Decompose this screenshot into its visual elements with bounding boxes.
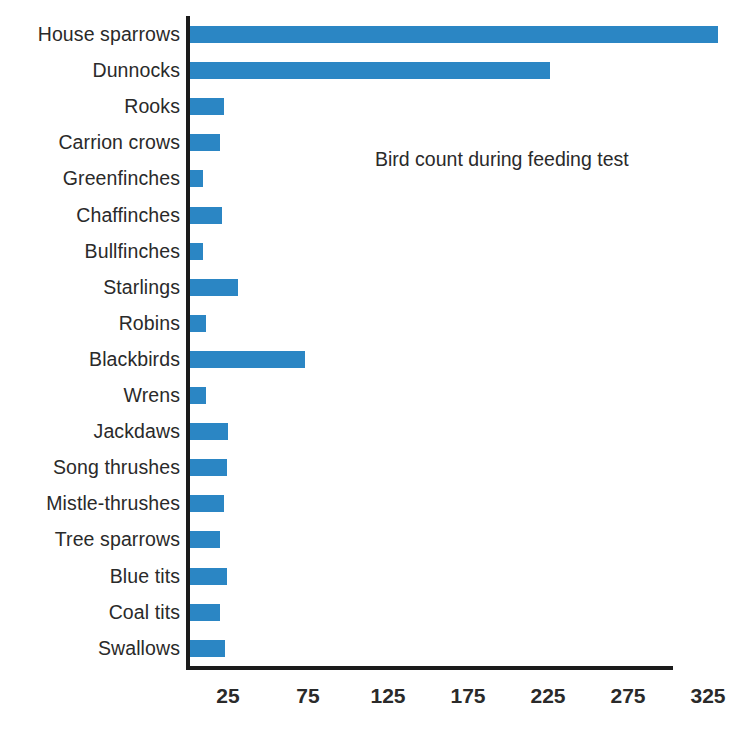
bar: [190, 134, 220, 151]
bar-category-label: Chaffinches: [76, 197, 180, 233]
bar-row: Coal tits: [0, 594, 700, 630]
bar-row: House sparrows: [0, 16, 700, 52]
x-axis-tick-label: 225: [508, 684, 588, 708]
bar: [190, 243, 203, 260]
x-axis-line: [186, 666, 673, 670]
x-axis-tick-label: 175: [428, 684, 508, 708]
bar-row: Swallows: [0, 630, 700, 666]
bar-rows: House sparrowsDunnocksRooksCarrion crows…: [0, 0, 700, 666]
x-axis-tick-label: 75: [268, 684, 348, 708]
x-axis-tick-label: 325: [668, 684, 730, 708]
bar: [190, 279, 238, 296]
bar-category-label: House sparrows: [38, 16, 180, 52]
bar: [190, 531, 220, 548]
bar: [190, 459, 227, 476]
bar-row: Wrens: [0, 377, 700, 413]
bar-category-label: Coal tits: [109, 594, 180, 630]
bar-category-label: Song thrushes: [53, 449, 180, 485]
bar: [190, 207, 222, 224]
bar-row: Carrion crows: [0, 124, 700, 160]
bar: [190, 640, 225, 657]
bar: [190, 495, 224, 512]
x-axis-tick-labels: 2575125175225275325: [0, 684, 700, 718]
bar-row: Greenfinches: [0, 160, 700, 196]
bar-category-label: Bullfinches: [85, 233, 180, 269]
bar-row: Blue tits: [0, 558, 700, 594]
bar-category-label: Blackbirds: [89, 341, 180, 377]
bar: [190, 387, 206, 404]
bar-category-label: Tree sparrows: [55, 521, 180, 557]
bar: [190, 604, 220, 621]
bar: [190, 170, 203, 187]
bar: [190, 98, 224, 115]
bar: [190, 26, 718, 43]
bar-row: Song thrushes: [0, 449, 700, 485]
bar-row: Blackbirds: [0, 341, 700, 377]
bar-row: Mistle-thrushes: [0, 485, 700, 521]
bar-category-label: Dunnocks: [92, 52, 180, 88]
bar-category-label: Mistle-thrushes: [46, 485, 180, 521]
bar: [190, 315, 206, 332]
bar: [190, 568, 227, 585]
x-axis-tick-label: 125: [348, 684, 428, 708]
bar-category-label: Wrens: [124, 377, 181, 413]
bar-category-label: Blue tits: [110, 558, 180, 594]
bar-row: Robins: [0, 305, 700, 341]
x-axis-tick-label: 275: [588, 684, 668, 708]
bar-category-label: Swallows: [98, 630, 180, 666]
bar-row: Tree sparrows: [0, 521, 700, 557]
bar: [190, 62, 550, 79]
bar: [190, 423, 228, 440]
bar-row: Bullfinches: [0, 233, 700, 269]
bar-row: Starlings: [0, 269, 700, 305]
x-axis-tick-label: 25: [188, 684, 268, 708]
bar-row: Dunnocks: [0, 52, 700, 88]
bar-category-label: Greenfinches: [63, 160, 180, 196]
bar-category-label: Rooks: [124, 88, 180, 124]
bar-category-label: Jackdaws: [94, 413, 180, 449]
bar-category-label: Starlings: [103, 269, 180, 305]
bar-row: Rooks: [0, 88, 700, 124]
bar-category-label: Robins: [119, 305, 180, 341]
bar-row: Jackdaws: [0, 413, 700, 449]
bar-category-label: Carrion crows: [58, 124, 180, 160]
bar: [190, 351, 305, 368]
bar-row: Chaffinches: [0, 197, 700, 233]
